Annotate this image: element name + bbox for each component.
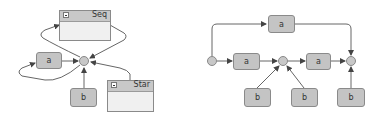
node-label: a bbox=[47, 56, 52, 65]
star-container[interactable]: Star bbox=[107, 80, 154, 112]
node-a[interactable]: a bbox=[36, 52, 62, 69]
node-a-2[interactable]: a bbox=[306, 53, 331, 70]
node-label: b bbox=[302, 93, 307, 102]
node-label: b bbox=[255, 93, 260, 102]
star-container-header: Star bbox=[108, 81, 153, 92]
seq-container[interactable]: Seq bbox=[59, 10, 111, 41]
node-label: b bbox=[81, 93, 86, 102]
junction-node[interactable] bbox=[79, 56, 89, 66]
node-a-1[interactable]: a bbox=[233, 53, 260, 70]
minus-icon[interactable] bbox=[63, 12, 69, 18]
seq-container-header: Seq bbox=[60, 11, 110, 22]
node-b-3[interactable]: b bbox=[337, 88, 365, 107]
node-b-1[interactable]: b bbox=[244, 88, 271, 107]
middle-junction[interactable] bbox=[278, 56, 288, 66]
node-a-top[interactable]: a bbox=[268, 15, 295, 33]
node-label: a bbox=[316, 57, 321, 66]
start-junction[interactable] bbox=[207, 56, 217, 66]
node-b-2[interactable]: b bbox=[291, 88, 318, 107]
end-junction[interactable] bbox=[346, 56, 356, 66]
node-label: b bbox=[348, 93, 353, 102]
star-container-title: Star bbox=[134, 80, 150, 89]
minus-icon[interactable] bbox=[111, 82, 117, 88]
node-label: a bbox=[244, 57, 249, 66]
node-b[interactable]: b bbox=[70, 88, 97, 107]
node-label: a bbox=[279, 20, 284, 29]
seq-container-title: Seq bbox=[92, 10, 107, 19]
